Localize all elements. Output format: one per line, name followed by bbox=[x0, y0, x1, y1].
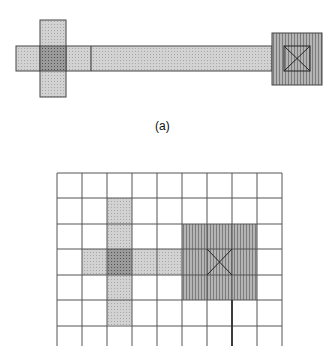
layout-diagram bbox=[0, 0, 328, 346]
figure-b bbox=[57, 173, 282, 346]
figure-a-caption: (a) bbox=[155, 119, 170, 133]
overlap-region bbox=[40, 46, 66, 71]
figure-a bbox=[16, 20, 322, 97]
grid-overlap bbox=[107, 249, 132, 275]
